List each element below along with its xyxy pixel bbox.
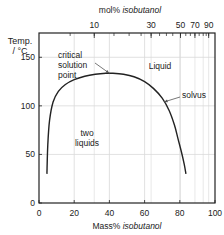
x-tick-label: 20 <box>69 208 79 218</box>
y-tick-label: 0 <box>30 198 35 208</box>
annotation-critical-solution-point: criticalsolutionpoint <box>58 50 88 80</box>
x-axis-label: Mass% isobutanol <box>93 221 163 231</box>
y-axis-label-line1: Temp. <box>8 36 33 46</box>
y-tick-label: 50 <box>26 149 36 159</box>
top-axis-ticks: 1030507090 <box>70 20 214 38</box>
x-tick-label: 0 <box>37 208 42 218</box>
annotation-solvus: solvus <box>182 90 206 100</box>
x-tick-label: 80 <box>175 208 185 218</box>
annotation-liquid: Liquid <box>149 61 172 71</box>
y-axis-label-line2: / °C <box>12 46 28 56</box>
solvus-curve <box>47 73 186 174</box>
top-tick-label: 90 <box>204 20 214 30</box>
top-axis-label: mol% isobutanol <box>99 5 162 15</box>
x-tick-label: 60 <box>140 208 150 218</box>
top-tick-label: 10 <box>90 20 100 30</box>
x-tick-label: 100 <box>208 208 222 218</box>
phase-diagram-chart: 020406080100 050100150 1030507090 Temp. … <box>0 0 224 235</box>
annotations: criticalsolutionpointsolvusLiquidtwoliqu… <box>58 50 206 148</box>
top-tick-label: 30 <box>146 20 156 30</box>
y-tick-label: 100 <box>21 101 35 111</box>
annotation-two-liquids: twoliquids <box>75 128 99 148</box>
top-tick-label: 50 <box>176 20 186 30</box>
top-tick-label: 70 <box>190 20 200 30</box>
series-solvus <box>47 73 186 174</box>
x-tick-label: 40 <box>105 208 115 218</box>
